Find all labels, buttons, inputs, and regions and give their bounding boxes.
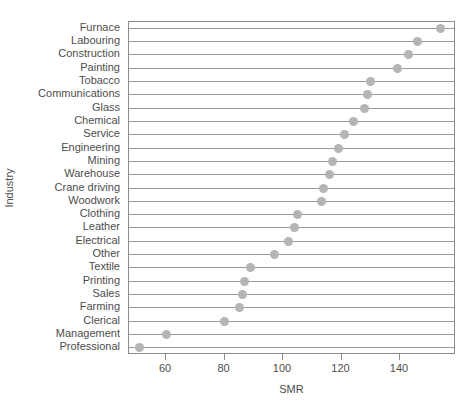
smr-industry-dotplot: Industry FurnaceLabouringConstructionPai…	[0, 0, 467, 410]
data-point	[238, 290, 247, 299]
x-axis-title: SMR	[128, 383, 455, 395]
data-point	[293, 210, 302, 219]
y-axis-tick-labels: FurnaceLabouringConstructionPaintingToba…	[16, 21, 124, 354]
data-point	[349, 117, 358, 126]
row-baseline	[129, 307, 454, 308]
y-axis-tick-label: Clothing	[80, 207, 120, 220]
row-baseline	[129, 214, 454, 215]
y-axis-title: Industry	[2, 21, 16, 354]
y-axis-tick-label: Chemical	[74, 114, 120, 127]
data-point	[284, 237, 293, 246]
data-point	[360, 104, 369, 113]
y-axis-tick-label: Engineering	[61, 141, 120, 154]
row-baseline	[129, 108, 454, 109]
x-axis-tick	[165, 354, 166, 360]
x-axis-tick-labels: 6080100120140	[128, 362, 455, 376]
y-axis-tick-label: Management	[56, 327, 120, 340]
row-baseline	[129, 254, 454, 255]
data-point	[366, 77, 375, 86]
y-axis-tick-label: Farming	[80, 300, 120, 313]
x-axis-tick	[399, 354, 400, 360]
y-axis-tick-label: Professional	[59, 340, 120, 353]
data-point	[235, 303, 244, 312]
x-axis-tick-label: 100	[273, 362, 291, 374]
row-baseline	[129, 121, 454, 122]
y-axis-tick-label: Painting	[80, 61, 120, 74]
x-axis-tick-label: 80	[217, 362, 229, 374]
y-axis-tick-label: Service	[83, 127, 120, 140]
data-point	[436, 24, 445, 33]
x-axis-tick	[282, 354, 283, 360]
row-baseline	[129, 321, 454, 322]
data-point	[325, 170, 334, 179]
y-axis-tick-label: Printing	[83, 274, 120, 287]
x-axis-tick	[341, 354, 342, 360]
data-point	[340, 130, 349, 139]
y-axis-tick-label: Communications	[38, 87, 120, 100]
y-axis-tick-label: Warehouse	[64, 167, 120, 180]
data-point	[317, 197, 326, 206]
y-axis-tick-label: Glass	[92, 101, 120, 114]
x-axis-tick	[224, 354, 225, 360]
data-point	[363, 90, 372, 99]
y-axis-tick-label: Clerical	[83, 314, 120, 327]
y-axis-tick-label: Sales	[92, 287, 120, 300]
data-point	[220, 317, 229, 326]
data-point	[290, 223, 299, 232]
row-baseline	[129, 68, 454, 69]
y-axis-tick-label: Construction	[58, 47, 120, 60]
x-axis-tick-label: 140	[390, 362, 408, 374]
data-point	[270, 250, 279, 259]
y-axis-tick-label: Other	[92, 247, 120, 260]
data-point	[246, 263, 255, 272]
data-point	[328, 157, 337, 166]
data-point	[404, 50, 413, 59]
y-axis-tick-label: Crane driving	[55, 181, 120, 194]
y-axis-tick-label: Mining	[88, 154, 120, 167]
y-axis-tick-label: Textile	[89, 260, 120, 273]
data-point	[334, 144, 343, 153]
data-point	[413, 37, 422, 46]
row-baseline	[129, 41, 454, 42]
row-baseline	[129, 134, 454, 135]
y-axis-tick-label: Leather	[83, 220, 120, 233]
y-axis-tick-label: Electrical	[75, 234, 120, 247]
plot-panel	[128, 21, 455, 354]
row-baseline	[129, 81, 454, 82]
y-axis-title-label: Industry	[3, 168, 15, 207]
row-baseline	[129, 267, 454, 268]
data-point	[319, 184, 328, 193]
row-baseline	[129, 148, 454, 149]
row-baseline	[129, 94, 454, 95]
y-axis-tick-label: Labouring	[71, 34, 120, 47]
data-point	[135, 343, 144, 352]
data-point	[393, 64, 402, 73]
row-baseline	[129, 294, 454, 295]
y-axis-tick-label: Woodwork	[68, 194, 120, 207]
row-baseline	[129, 281, 454, 282]
row-baseline	[129, 161, 454, 162]
row-baseline	[129, 188, 454, 189]
row-baseline	[129, 347, 454, 348]
row-baseline	[129, 174, 454, 175]
y-axis-tick-label: Furnace	[80, 21, 120, 34]
row-baseline	[129, 334, 454, 335]
x-axis-ticks	[128, 354, 455, 362]
data-point	[162, 330, 171, 339]
x-axis-tick-label: 120	[331, 362, 349, 374]
data-point	[240, 277, 249, 286]
row-baseline	[129, 201, 454, 202]
row-baseline	[129, 28, 454, 29]
x-axis-tick-label: 60	[159, 362, 171, 374]
y-axis-tick-label: Tobacco	[79, 74, 120, 87]
